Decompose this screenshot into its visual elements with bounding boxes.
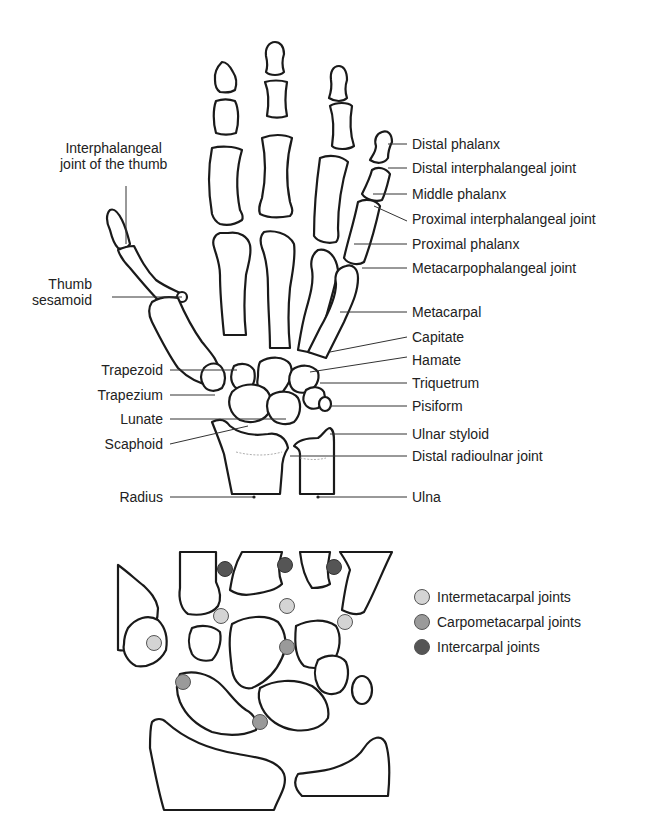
- label-metacarpal: Metacarpal: [412, 304, 481, 320]
- dark-circle-icon: [414, 639, 430, 655]
- label-thumb-sesamoid: Thumb sesamoid: [32, 276, 92, 308]
- legend-item-intermetacarpal: Intermetacarpal joints: [414, 584, 581, 609]
- light-circle-icon: [414, 589, 430, 605]
- carpometacarpal-joint-marker: [253, 715, 268, 730]
- label-distal-phalanx: Distal phalanx: [412, 136, 500, 152]
- label-triquetrum: Triquetrum: [412, 375, 479, 391]
- joint-legend: Intermetacarpal joints Carpometacarpal j…: [414, 584, 581, 659]
- label-scaphoid: Scaphoid: [105, 436, 163, 452]
- forearm-bones: [212, 420, 334, 494]
- intercarpal-joint-marker: [218, 562, 233, 577]
- label-distal-radioulnar-joint: Distal radioulnar joint: [412, 448, 543, 464]
- legend-label: Carpometacarpal joints: [437, 614, 581, 630]
- carpometacarpal-joint-marker: [176, 675, 191, 690]
- legend-item-carpometacarpal: Carpometacarpal joints: [414, 609, 581, 634]
- middle-finger: [259, 42, 294, 348]
- label-ulnar-styloid: Ulnar styloid: [412, 426, 489, 442]
- label-line: Interphalangeal: [60, 140, 167, 156]
- carpometacarpal-joint-marker: [280, 640, 295, 655]
- thumb: [107, 209, 221, 386]
- intermetacarpal-joint-marker: [338, 615, 353, 630]
- label-trapezoid: Trapezoid: [101, 362, 163, 378]
- label-metacarpophalangeal-joint: Metacarpophalangeal joint: [412, 260, 576, 276]
- label-trapezium: Trapezium: [97, 387, 163, 403]
- legend-label: Intercarpal joints: [437, 639, 540, 655]
- carpal-bones: [201, 358, 331, 424]
- legend-label: Intermetacarpal joints: [437, 589, 571, 605]
- label-line: Thumb: [32, 276, 92, 292]
- label-radius: Radius: [119, 489, 163, 505]
- label-proximal-interphalangeal-joint: Proximal interphalangeal joint: [412, 211, 596, 227]
- wrist-joint-schematic: [118, 552, 392, 810]
- label-hamate: Hamate: [412, 352, 461, 368]
- index-finger: [209, 62, 251, 335]
- label-line: joint of the thumb: [60, 156, 167, 172]
- label-ulna: Ulna: [412, 489, 441, 505]
- intermetacarpal-joint-marker: [214, 609, 229, 624]
- intercarpal-joint-marker: [278, 558, 293, 573]
- intermetacarpal-joint-marker: [280, 599, 295, 614]
- legend-item-intercarpal: Intercarpal joints: [414, 634, 581, 659]
- intercarpal-joint-marker: [327, 560, 342, 575]
- label-capitate: Capitate: [412, 329, 464, 345]
- hand-skeleton-diagram: [0, 0, 657, 819]
- label-proximal-phalanx: Proximal phalanx: [412, 236, 519, 252]
- label-middle-phalanx: Middle phalanx: [412, 186, 506, 202]
- intermetacarpal-joint-marker: [147, 636, 162, 651]
- label-pisiform: Pisiform: [412, 398, 463, 414]
- label-interphalangeal-joint-thumb: Interphalangeal joint of the thumb: [60, 140, 167, 172]
- medium-circle-icon: [414, 614, 430, 630]
- label-line: sesamoid: [32, 292, 92, 308]
- label-lunate: Lunate: [120, 411, 163, 427]
- label-distal-interphalangeal-joint: Distal interphalangeal joint: [412, 160, 576, 176]
